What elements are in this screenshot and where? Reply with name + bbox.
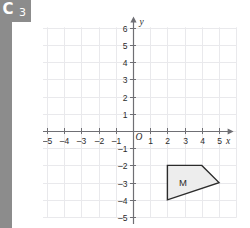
page-badge: C 3 [0,0,31,22]
svg-text:–5: –5 [43,136,52,146]
svg-text:6: 6 [123,24,128,34]
axis-names: yxO [136,17,232,145]
axes [43,17,234,224]
screenshot-root: C 3 –5–4–3–2–112345654321–1–2–3–4–5 yxO … [0,0,250,228]
plotted-shapes: M [167,165,219,199]
svg-text:4: 4 [200,136,205,146]
svg-text:4: 4 [123,58,128,68]
svg-text:O: O [136,132,143,142]
tick-labels: –5–4–3–2–112345654321–1–2–3–4–5 [43,24,222,223]
badge-letter: C [1,0,15,19]
svg-text:–4: –4 [118,196,128,206]
svg-text:3: 3 [183,136,188,146]
svg-text:1: 1 [148,136,153,146]
svg-text:2: 2 [165,136,170,146]
svg-text:y: y [139,17,145,27]
svg-text:–2: –2 [95,136,105,146]
svg-text:–1: –1 [118,144,128,154]
svg-text:3: 3 [123,75,128,85]
shape-label-m: M [179,177,187,188]
coordinate-grid-svg: –5–4–3–2–112345654321–1–2–3–4–5 yxO M [43,4,245,224]
svg-text:–3: –3 [77,136,87,146]
svg-text:–5: –5 [118,213,128,223]
svg-text:x: x [225,136,231,146]
svg-text:5: 5 [123,41,128,51]
svg-text:1: 1 [123,110,128,120]
shape-m [167,165,219,199]
svg-text:–2: –2 [118,161,128,171]
gridlines [43,27,237,217]
svg-text:2: 2 [123,93,128,103]
badge-number: 3 [16,5,29,20]
svg-text:–4: –4 [60,136,70,146]
svg-text:–3: –3 [118,179,128,189]
left-sidebar-strip [0,0,12,228]
coordinate-plane: –5–4–3–2–112345654321–1–2–3–4–5 yxO M [43,4,245,224]
svg-text:5: 5 [217,136,222,146]
